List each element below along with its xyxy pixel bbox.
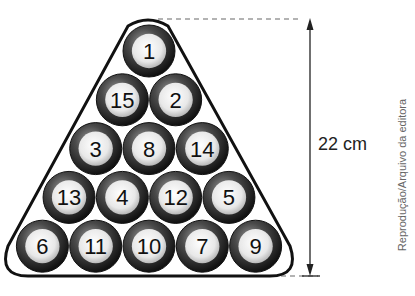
billiard-ball: 3 [70,123,122,175]
ball-number: 2 [170,88,182,113]
ball-number: 13 [57,185,81,210]
billiard-ball: 2 [150,74,202,126]
ball-number: 4 [116,185,128,210]
ball-number: 11 [84,234,107,259]
ball-number: 15 [110,88,134,113]
ball-number: 6 [36,234,48,259]
billiard-ball: 8 [123,123,175,175]
billiard-ball: 10 [123,220,175,272]
ball-number: 14 [190,137,214,162]
billiard-ball: 15 [96,74,148,126]
billiard-ball: 6 [16,220,68,272]
billiard-ball: 14 [176,123,228,175]
billiard-ball: 4 [96,171,148,223]
billiard-ball: 5 [203,171,255,223]
ball-number: 7 [196,234,208,259]
ball-group: 115238141341256111079 [16,25,281,272]
billiard-ball: 11 [70,220,122,272]
measurement-label: 22 cm [318,134,367,155]
billiard-ball: 7 [176,220,228,272]
ball-number: 10 [137,234,161,259]
ball-number: 3 [90,137,102,162]
billiard-ball: 9 [230,220,282,272]
ball-number: 12 [163,185,187,210]
ball-number: 9 [249,234,261,259]
ball-number: 5 [223,185,235,210]
image-credit: Reprodução/Arquivo da editora [396,99,408,251]
ball-number: 1 [143,39,155,64]
billiard-ball: 13 [43,171,95,223]
billiard-ball: 1 [123,25,175,77]
billiard-ball: 12 [150,171,202,223]
ball-number: 8 [143,137,155,162]
